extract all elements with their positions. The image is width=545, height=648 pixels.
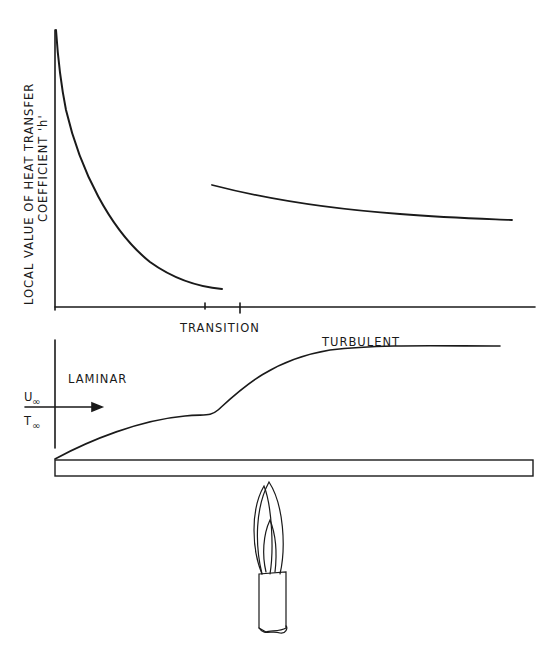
turbulent-label: TURBULENT [321, 335, 400, 349]
arrowhead-icon [92, 403, 102, 411]
burner-tube-icon [259, 572, 286, 632]
heat-transfer-diagram: LOCAL VALUE OF HEAT TRANSFER COEFFICIENT… [0, 0, 545, 648]
boundary-layer-curve [55, 346, 500, 459]
freestream-temperature-label: T [23, 414, 32, 428]
velocity-infinity-subscript: ∞ [32, 396, 41, 407]
laminar-h-curve [56, 30, 222, 289]
flame-outer-icon [257, 482, 283, 574]
flame-inner-icon [264, 520, 276, 572]
turbulent-h-curve [212, 185, 512, 220]
flame-outer-icon [254, 486, 272, 574]
temperature-infinity-subscript: ∞ [32, 420, 41, 431]
y-axis-label-line1: LOCAL VALUE OF HEAT TRANSFER [22, 83, 36, 305]
y-axis-label-line2: COEFFICIENT 'h' [36, 114, 50, 222]
laminar-label: LAMINAR [68, 372, 127, 386]
transition-label: TRANSITION [179, 321, 260, 335]
flat-plate [55, 460, 533, 476]
